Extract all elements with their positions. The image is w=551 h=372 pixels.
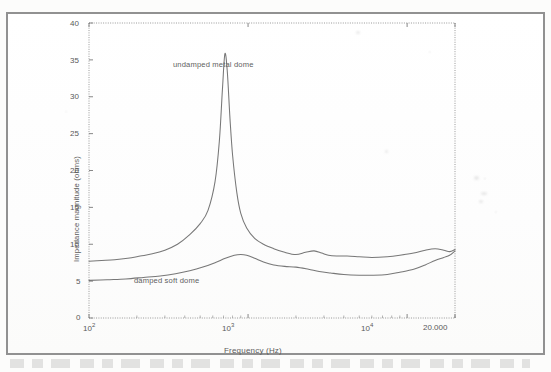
scan-smudge-1	[356, 31, 360, 34]
scan-smudge-5	[385, 150, 388, 153]
chart-svg	[6, 12, 545, 355]
xtick-label-1e2: 102	[83, 322, 95, 333]
series-line-undamped-metal-dome	[89, 53, 455, 261]
ytick-label-30: 30	[70, 92, 79, 101]
scan-smudge-4	[479, 200, 483, 203]
figure-caption-illegible	[10, 359, 530, 368]
xtick-exponent-1e4: 4	[370, 322, 373, 328]
y-tick-marks	[89, 23, 93, 318]
plot-area: 40 35 30 25 20 15 10 5 0 102 103 104 20.…	[6, 12, 545, 355]
xtick-label-1e3: 103	[222, 322, 234, 333]
xtick-mantissa-1e3: 10	[222, 324, 231, 333]
annotation-undamped-metal-dome: undamped metal dome	[173, 60, 254, 69]
ytick-label-5: 5	[76, 277, 80, 286]
xtick-label-1e4: 104	[361, 322, 373, 333]
annotation-damped-soft-dome: damped soft dome	[134, 276, 199, 285]
scan-smudge-3	[481, 192, 487, 195]
ytick-label-0: 0	[76, 313, 80, 322]
xtick-label-20000: 20.000	[423, 323, 447, 332]
xtick-exponent-1e3: 3	[231, 322, 234, 328]
scan-smudge-2	[474, 176, 479, 180]
ytick-label-40: 40	[70, 19, 79, 28]
x-tick-marks	[89, 23, 455, 318]
y-axis-title: Impedance magnitude (ohms)	[72, 156, 81, 262]
ytick-label-25: 25	[70, 129, 79, 138]
xtick-exponent-1e2: 2	[92, 322, 95, 328]
xtick-mantissa-1e2: 10	[83, 324, 92, 333]
ytick-label-35: 35	[70, 56, 79, 65]
x-axis-title: Frequency (Hz)	[224, 346, 282, 355]
axes-box	[89, 23, 455, 318]
xtick-mantissa-1e4: 10	[361, 324, 370, 333]
